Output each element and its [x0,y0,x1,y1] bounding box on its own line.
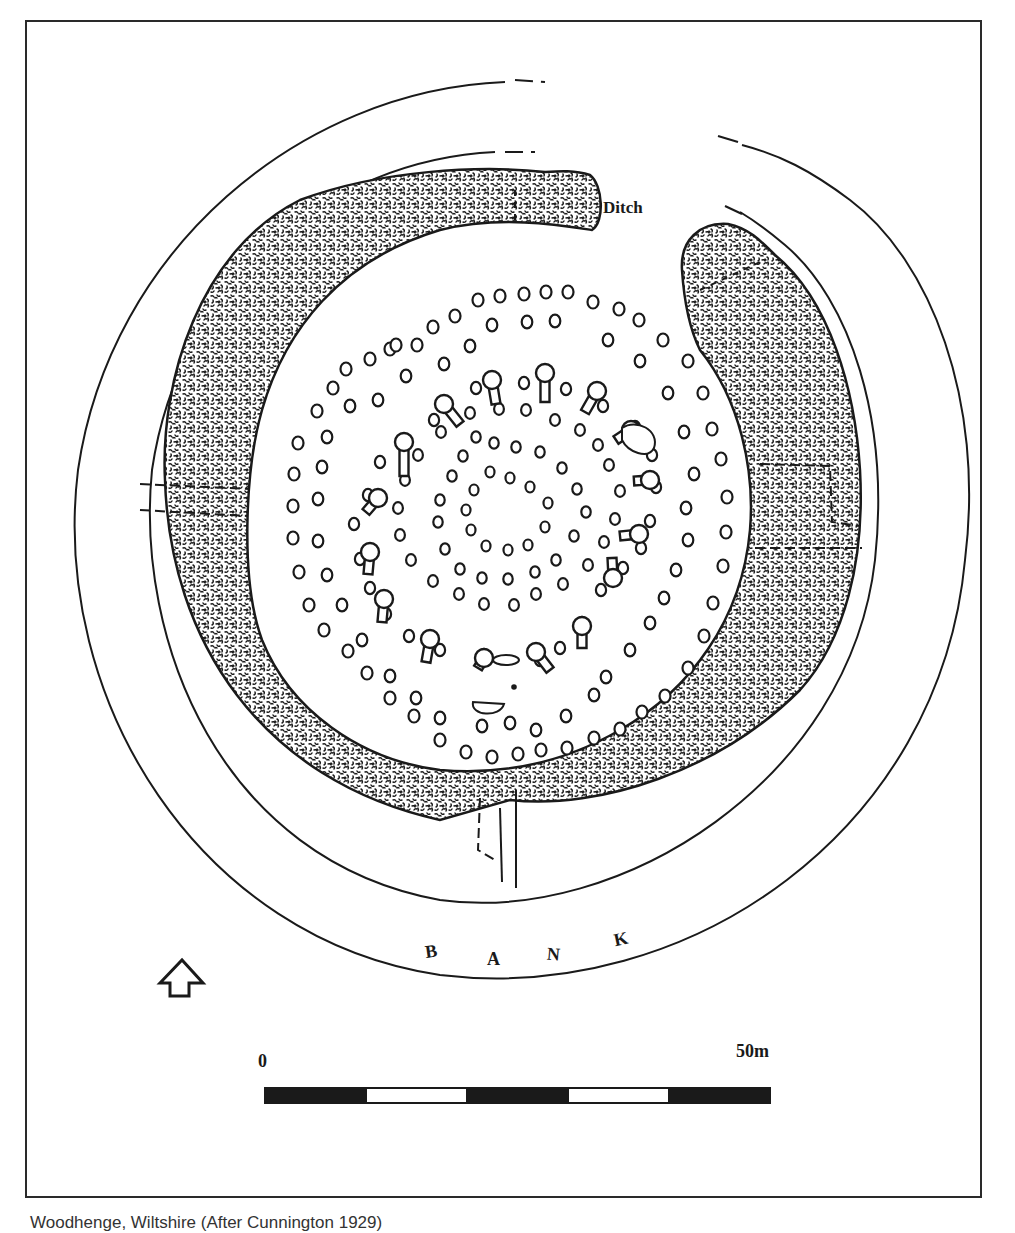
post-hole [519,288,530,301]
post-hole [477,572,486,583]
post-hole [541,522,550,533]
post-hole [671,564,682,577]
post-hole [401,370,412,383]
figure-caption: Woodhenge, Wiltshire (After Cunnington 1… [30,1213,382,1233]
post-hole [495,290,506,303]
post-hole [313,493,324,506]
scale-start-label: 0 [258,1051,267,1071]
post-hole [683,534,694,547]
large-post-hole [630,525,648,543]
post-hole [373,394,384,407]
large-post-hole [421,630,439,648]
post-hole [572,483,581,494]
post-hole [683,662,694,675]
post-hole [289,468,300,481]
post-hole [541,286,552,299]
post-hole [645,617,656,630]
post-hole [470,485,479,496]
post-holes [288,286,733,764]
post-hole [660,690,671,703]
post-hole [634,314,645,327]
post-hole [454,588,464,600]
post-hole [436,426,446,438]
post-hole [603,334,614,347]
post-hole [610,513,620,525]
post-hole [471,431,480,442]
post-hole [341,363,352,376]
post-hole [482,541,491,552]
post-hole [524,540,533,551]
post-hole [357,634,368,647]
ramp [400,450,409,476]
large-post-hole [369,489,387,507]
post-hole [345,400,356,413]
large-post-hole [475,649,493,667]
post-hole [599,536,609,548]
post-hole [519,377,529,389]
post-hole [659,592,670,605]
north-arrow-icon [160,960,203,996]
scale-end-label: 50m [736,1041,769,1061]
post-hole [536,744,547,757]
post-hole [404,630,414,642]
post-hole [679,426,690,439]
post-hole [362,667,373,680]
bank-letter-a: A [487,949,500,969]
post-hole [707,423,718,436]
post-hole [531,724,542,737]
scale-segment [265,1088,366,1103]
large-post-hole [483,371,501,389]
post-hole [506,473,515,484]
post-hole [563,286,574,299]
post-hole [435,734,446,747]
post-hole [683,355,694,368]
post-hole [413,449,423,461]
large-post-hole [375,590,393,608]
post-hole [558,578,568,590]
post-hole [489,437,498,448]
large-post-hole [604,569,622,587]
post-hole [598,400,608,412]
post-hole [465,407,475,419]
post-hole [509,599,519,611]
bank-letter-n: N [546,944,561,965]
post-hole [312,405,323,418]
post-hole [447,470,456,481]
post-hole [435,494,444,505]
post-hole [406,554,416,566]
ditch-label: Ditch [603,198,643,217]
post-hole [433,516,442,527]
post-hole [550,315,561,328]
post-hole [681,502,692,515]
post-hole [411,692,422,705]
post-hole [721,526,732,539]
post-hole [699,630,710,643]
scale-segment [568,1088,669,1103]
post-hole [319,624,330,637]
ramp [541,381,550,402]
post-hole [521,404,531,416]
post-hole [575,424,585,436]
post-hole [589,732,600,745]
large-post-hole [641,471,659,489]
post-hole [615,723,626,736]
post-hole [604,459,614,471]
post-hole [450,310,461,323]
post-hole [322,431,333,444]
post-hole [569,530,578,541]
large-post-hole [435,395,453,413]
post-hole [722,491,733,504]
post-hole [487,319,498,332]
post-hole [589,689,600,702]
post-hole [551,554,560,565]
post-hole [455,563,464,574]
post-hole [461,746,472,759]
post-hole [689,468,700,481]
scale-bar: 0 50m [258,1041,770,1103]
post-hole [477,720,488,733]
post-hole [557,462,566,473]
post-hole [288,500,299,513]
post-hole [343,645,354,658]
post-hole [635,355,646,368]
large-post-hole [536,364,554,382]
